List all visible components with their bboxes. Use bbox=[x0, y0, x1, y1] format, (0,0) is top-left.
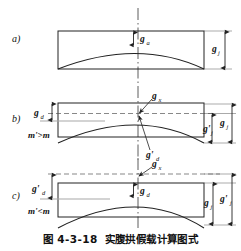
panel-c-gj-label-sub: j bbox=[210, 203, 213, 210]
panel-c: c) g' d m'<m g x g d bbox=[12, 158, 236, 228]
figure-caption-number: 图 4-3-18 bbox=[43, 233, 98, 245]
panel-c-gx-label-main: g bbox=[151, 159, 157, 169]
panel-a-arch-curve bbox=[58, 54, 204, 70]
figure-caption-title: 实腹拱假载计算图式 bbox=[105, 233, 199, 245]
panel-b-gj-label-sub: j bbox=[226, 123, 229, 130]
panel-b-gx-label-main: g bbox=[151, 91, 157, 101]
panel-a-section-outline bbox=[58, 31, 204, 69]
panel-c-gdprime-label-main: g' bbox=[31, 184, 40, 194]
panel-c-gd-label-main: g bbox=[139, 186, 145, 196]
panel-c-gdprime-label: g' d bbox=[31, 184, 46, 196]
panel-b-gd-label-main: g bbox=[33, 108, 39, 118]
figure-container: a) g a g j b) bbox=[0, 0, 241, 251]
panel-c-gdprime-label-sub: d bbox=[42, 189, 46, 196]
panel-b-gd-label: g d bbox=[33, 108, 45, 120]
panel-a-crown-label-sub: a bbox=[147, 39, 150, 46]
panel-b-arch-curve bbox=[58, 125, 204, 143]
panel-c-gd-label-sub: d bbox=[147, 191, 151, 198]
panel-a: a) g a g j bbox=[12, 8, 232, 84]
panel-a-label: a) bbox=[12, 33, 21, 45]
panel-a-crown-label: g a bbox=[139, 34, 150, 46]
panel-b-gd-label-sub: d bbox=[41, 113, 45, 120]
panel-b-mass-note: m'>m bbox=[28, 130, 50, 140]
panel-b-section-outline bbox=[58, 103, 204, 137]
panel-b-gx-label-sub: x bbox=[158, 96, 162, 103]
figure-caption: 图 4-3-18实腹拱假载计算图式 bbox=[0, 231, 241, 246]
panel-c-gjprime-label-sub: j bbox=[229, 199, 232, 206]
panel-b-gx-leader bbox=[140, 99, 153, 113]
panel-a-height-label: g j bbox=[211, 44, 220, 56]
panel-b-gjprime-label-sub: j bbox=[210, 129, 213, 136]
panel-c-gjprime-label-main: g' bbox=[219, 194, 228, 204]
panel-b-gjprime-label-main: g' bbox=[202, 124, 211, 134]
arch-load-diagram: a) g a g j b) bbox=[0, 0, 241, 232]
panel-b-gj-label-main: g bbox=[219, 118, 225, 128]
panel-a-height-label-main: g bbox=[211, 44, 217, 54]
panel-c-gx-leader bbox=[139, 167, 152, 176]
panel-b-gj-label: g j bbox=[219, 118, 229, 130]
panel-c-label: c) bbox=[12, 190, 20, 202]
panel-c-mass-note: m'<m bbox=[28, 206, 50, 216]
panel-c-gx-label: g x bbox=[151, 159, 162, 171]
panel-a-height-label-sub: j bbox=[217, 49, 220, 56]
panel-b-gdprime-leader bbox=[139, 116, 150, 150]
panel-c-gd-label: g d bbox=[139, 186, 151, 198]
panel-b-label: b) bbox=[12, 113, 21, 125]
panel-c-gj-label-main: g bbox=[203, 198, 209, 208]
panel-b: b) g d m'>m g x g' d bbox=[12, 86, 236, 162]
panel-c-gx-label-sub: x bbox=[158, 164, 162, 171]
panel-a-crown-label-main: g bbox=[139, 34, 145, 44]
panel-b-gx-label: g x bbox=[151, 91, 162, 103]
panel-c-section-outline bbox=[58, 183, 204, 217]
panel-c-gjprime-label: g' j bbox=[219, 194, 232, 206]
